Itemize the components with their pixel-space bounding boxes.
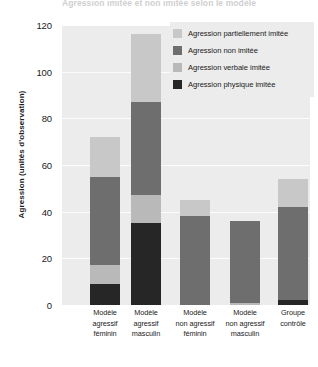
y-tick-label: 80 xyxy=(0,113,52,124)
bar-segment xyxy=(230,303,260,305)
bar-segment xyxy=(180,216,210,305)
bar-3 xyxy=(180,200,210,305)
bar-1 xyxy=(90,137,120,305)
legend-label: Agression partiellement imitée xyxy=(188,29,288,38)
chart-figure: Agression imitée et non imitée selon le … xyxy=(0,0,318,367)
legend-swatch-icon xyxy=(173,29,182,38)
chart-legend: Agression partiellement imitéeAgression … xyxy=(170,22,314,97)
bar-segment xyxy=(90,137,120,177)
bar-segment xyxy=(131,223,161,305)
legend-item-3: Agression verbale imitée xyxy=(170,59,314,76)
legend-item-1: Agression partiellement imitée xyxy=(170,25,314,42)
bar-segment xyxy=(278,207,308,300)
y-tick-label: 40 xyxy=(0,206,52,217)
bar-segment xyxy=(90,177,120,266)
bar-segment xyxy=(90,265,120,284)
chart-title: Agression imitée et non imitée selon le … xyxy=(62,0,312,10)
x-axis-labels: ModèleagressiffémininModèleagressifmascu… xyxy=(62,308,310,354)
bar-segment xyxy=(131,34,161,102)
bar-segment xyxy=(278,300,308,305)
legend-swatch-icon xyxy=(173,46,182,55)
bar-4 xyxy=(230,221,260,305)
bar-segment xyxy=(278,179,308,207)
y-tick-label: 120 xyxy=(0,20,52,31)
y-tick-label: 0 xyxy=(0,300,52,311)
legend-item-4: Agression physique imitée xyxy=(170,76,314,93)
bar-segment xyxy=(90,284,120,305)
y-tick-label: 20 xyxy=(0,253,52,264)
y-axis-ticks: 020406080100120 xyxy=(0,0,62,367)
legend-swatch-icon xyxy=(173,80,182,89)
legend-label: Agression verbale imitée xyxy=(188,63,270,72)
legend-label: Agression non imitée xyxy=(188,46,258,55)
x-axis-label-2: Modèleagressifmasculin xyxy=(118,308,174,340)
legend-label: Agression physique imitée xyxy=(188,80,275,89)
x-axis-label-3: Modèlenon agressifféminin xyxy=(167,308,223,340)
y-tick-label: 100 xyxy=(0,66,52,77)
bar-segment xyxy=(131,195,161,223)
bar-segment xyxy=(131,102,161,195)
y-tick-label: 60 xyxy=(0,160,52,171)
bar-2 xyxy=(131,34,161,305)
x-axis-label-5: Groupecontrôle xyxy=(265,308,318,329)
legend-swatch-icon xyxy=(173,63,182,72)
legend-item-2: Agression non imitée xyxy=(170,42,314,59)
bar-5 xyxy=(278,179,308,305)
gridline xyxy=(62,118,310,119)
bar-segment xyxy=(180,200,210,216)
bar-segment xyxy=(230,221,260,303)
